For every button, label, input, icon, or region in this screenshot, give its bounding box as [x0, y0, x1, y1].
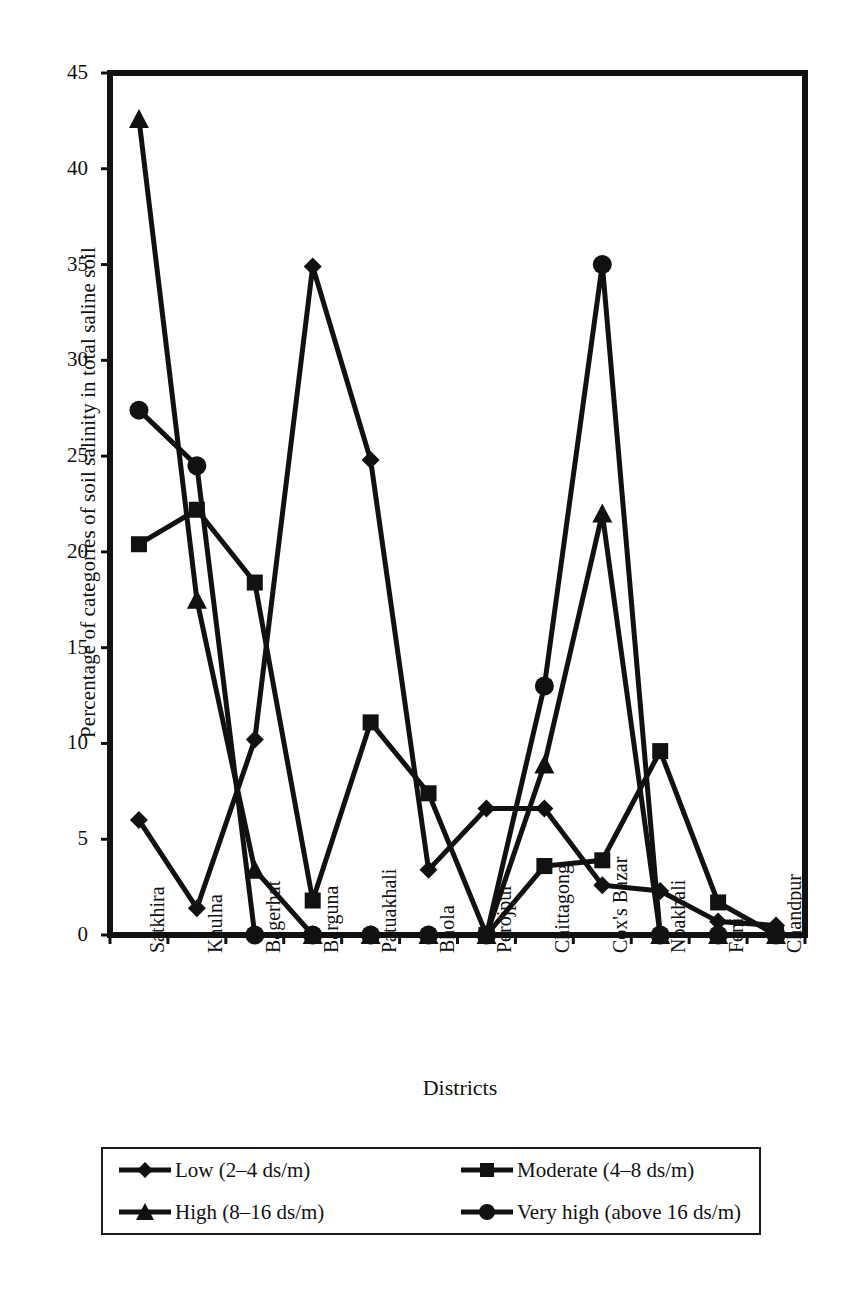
chart-figure: Percentage of categories of soil salinit… [0, 0, 850, 1296]
legend-entry[interactable]: Low (2–4 ds/m) [103, 1158, 431, 1183]
diamond-marker-icon [117, 1159, 173, 1181]
x-tick-label: Barguna [321, 886, 341, 953]
x-tick-label: Khulna [205, 894, 225, 953]
x-tick-label: Chittagong [552, 864, 572, 953]
legend-label: Low (2–4 ds/m) [175, 1158, 310, 1183]
x-tick-label: Cox's Bazar [610, 857, 630, 953]
x-tick-label: Satkhira [147, 886, 167, 953]
x-tick-label: Perojpur [494, 884, 514, 953]
plot-frame [110, 73, 805, 935]
legend-entry[interactable]: Very high (above 16 ds/m) [431, 1200, 759, 1225]
series-0 [130, 257, 785, 934]
square-marker-icon [459, 1159, 515, 1181]
x-tick-label: Chandpur [784, 874, 804, 953]
chart-legend: Low (2–4 ds/m)Moderate (4–8 ds/m)High (8… [101, 1147, 761, 1235]
legend-entry[interactable]: Moderate (4–8 ds/m) [431, 1158, 759, 1183]
x-tick-label: Noakhali [668, 880, 688, 953]
legend-label: Very high (above 16 ds/m) [517, 1200, 741, 1225]
triangle-marker-icon [117, 1201, 173, 1223]
circle-marker-icon [459, 1201, 515, 1223]
legend-label: High (8–16 ds/m) [175, 1200, 324, 1225]
x-axis-title: Districts [110, 1075, 810, 1101]
x-tick-label: Feni [726, 917, 746, 953]
x-tick-label: Bhola [437, 905, 457, 953]
legend-label: Moderate (4–8 ds/m) [517, 1158, 694, 1183]
x-tick-label: Patuakhali [379, 869, 399, 953]
x-tick-label: Bagerhat [263, 881, 283, 953]
plot-area [0, 0, 850, 1296]
legend-entry[interactable]: High (8–16 ds/m) [103, 1200, 431, 1225]
